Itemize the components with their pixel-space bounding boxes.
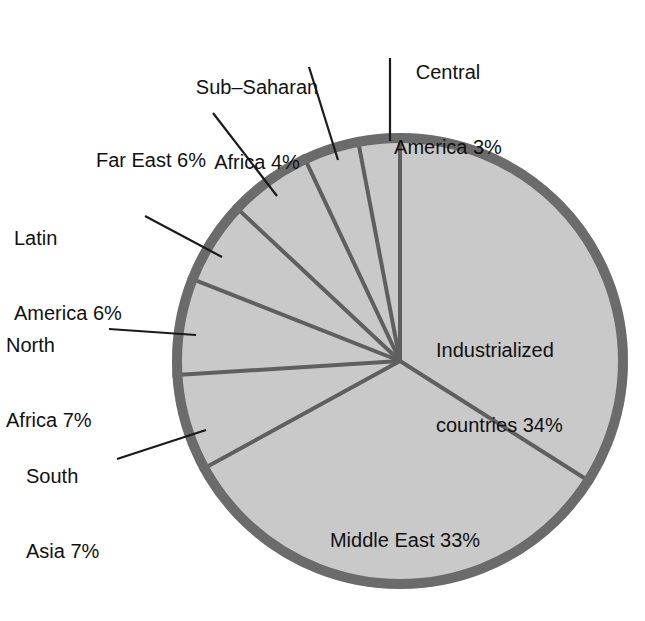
slice-label-industrialized-countries-line2: countries 34% [436, 413, 636, 438]
slice-label-middle-east: Middle East 33% [305, 478, 505, 603]
slice-label-industrialized-countries-line1: Industrialized [436, 338, 636, 363]
slice-label-central-america-line2: America 3% [368, 135, 528, 160]
pie-chart: Central America 3% Sub–Saharan Africa 4%… [0, 0, 645, 621]
slice-label-far-east-line1: Far East 6% [44, 148, 206, 173]
slice-label-central-america-line1: Central [368, 60, 528, 85]
slice-label-north-africa-line1: North [6, 333, 156, 358]
slice-label-south-asia-line2: Asia 7% [26, 539, 176, 564]
slice-label-industrialized-countries: Industrialized countries 34% [436, 288, 636, 488]
slice-label-sub-saharan-africa-line1: Sub–Saharan [182, 75, 332, 100]
slice-label-central-america: Central America 3% [368, 10, 528, 210]
slice-label-latin-america-line1: Latin [14, 226, 164, 251]
slice-label-south-asia: South Asia 7% [26, 414, 176, 614]
slice-label-south-asia-line1: South [26, 464, 176, 489]
slice-label-middle-east-line1: Middle East 33% [305, 528, 505, 553]
